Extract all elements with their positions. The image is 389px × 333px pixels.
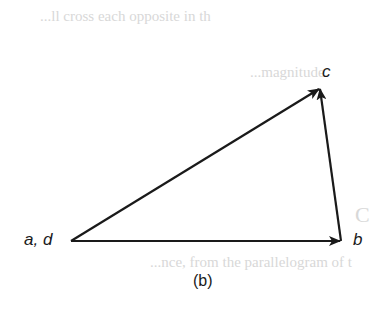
vertex-label-ad: a, d (24, 230, 52, 250)
figure-caption: (b) (193, 272, 213, 290)
vector-b-to-c (320, 89, 341, 241)
vertex-label-c: c (322, 62, 331, 82)
vector-ad-to-c (71, 89, 319, 241)
vertex-label-b: b (353, 230, 362, 250)
